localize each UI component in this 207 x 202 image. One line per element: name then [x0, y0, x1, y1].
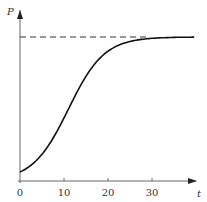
logistic-chart: P t 0 10 20 30 [0, 0, 207, 202]
x-tick-label-20: 20 [102, 187, 115, 198]
x-tick-label-10: 10 [58, 187, 71, 198]
y-axis-label: P [6, 6, 14, 17]
y-axis-arrow-icon [17, 10, 23, 19]
x-axis-arrow-icon [188, 178, 197, 184]
x-axis-label: t [197, 188, 202, 199]
x-tick-label-0: 0 [17, 187, 23, 198]
x-tick-label-30: 30 [146, 187, 159, 198]
logistic-curve [20, 37, 194, 172]
